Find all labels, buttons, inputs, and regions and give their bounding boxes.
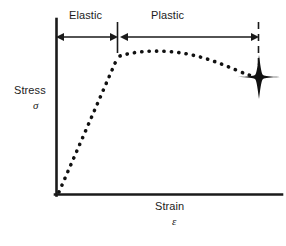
stress-strain-plot [0, 0, 286, 246]
region-label-elastic: Elastic [69, 9, 102, 22]
axes-group [55, 19, 282, 196]
x-axis-label: Strain [155, 200, 184, 213]
elastic-span-arrow [56, 33, 118, 41]
y-axis-symbol-sigma: σ [33, 99, 38, 112]
stress-strain-curve [59, 51, 256, 192]
stress-strain-figure: Elastic Plastic Stress σ Strain ε [0, 0, 286, 246]
region-annotations-group [56, 22, 259, 72]
region-label-plastic: Plastic [151, 9, 184, 22]
fracture-star-icon [238, 55, 280, 99]
curve-plastic-segment [120, 51, 256, 77]
curve-elastic-segment [59, 58, 118, 193]
x-axis-symbol-epsilon: ε [172, 215, 176, 228]
plastic-span-arrow [120, 33, 259, 41]
y-axis-label: Stress [14, 84, 46, 97]
